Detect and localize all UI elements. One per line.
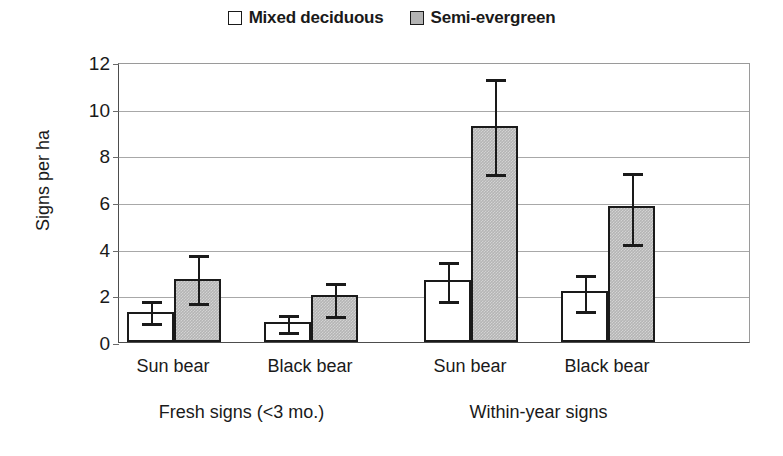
- x-axis-group-label-0: Fresh signs (<3 mo.): [159, 402, 325, 423]
- error-bar-cap-upper: [142, 301, 162, 304]
- error-bar-cap-lower: [189, 303, 209, 306]
- chart-legend: Mixed deciduous Semi-evergreen: [0, 8, 783, 28]
- x-axis-label-2: Sun bear: [433, 356, 506, 377]
- error-bar-cap-upper: [439, 262, 459, 265]
- legend-swatch-icon-mixed-deciduous: [228, 11, 242, 25]
- legend-label-mixed-deciduous: Mixed deciduous: [249, 8, 384, 28]
- error-bar-cap-upper: [326, 283, 346, 286]
- legend-label-semi-evergreen: Semi-evergreen: [431, 8, 556, 28]
- y-tick-label: 8: [99, 146, 110, 168]
- error-bar-cap-lower: [142, 323, 162, 326]
- x-axis-label-0: Sun bear: [136, 356, 209, 377]
- y-axis-title: Signs per ha: [33, 91, 54, 271]
- y-tick-mark: [113, 344, 119, 345]
- x-axis-label-1: Black bear: [267, 356, 352, 377]
- error-bar-cap-lower: [486, 174, 506, 177]
- error-bar-cap-upper: [189, 255, 209, 258]
- y-tick-label: 6: [99, 193, 110, 215]
- legend-swatch-icon-semi-evergreen: [410, 11, 424, 25]
- x-axis-group-label-1: Within-year signs: [469, 402, 607, 423]
- error-bar-line: [448, 262, 450, 301]
- error-bar-cap-lower: [326, 316, 346, 319]
- error-bar-cap-lower: [576, 311, 596, 314]
- error-bar-cap-lower: [439, 301, 459, 304]
- error-bar-line: [495, 79, 497, 174]
- plot-area: 024681012: [118, 63, 750, 343]
- y-tick-label: 10: [89, 100, 110, 122]
- y-tick-label: 12: [89, 53, 110, 75]
- y-tick-label: 0: [99, 333, 110, 355]
- error-bar-line: [632, 173, 634, 244]
- bars-layer: [119, 64, 749, 342]
- error-bar-cap-upper: [486, 79, 506, 82]
- error-bar-line: [335, 283, 337, 316]
- error-bar-cap-upper: [623, 173, 643, 176]
- legend-entry-mixed-deciduous: Mixed deciduous: [228, 8, 384, 28]
- bar-chart: Mixed deciduous Semi-evergreen Signs per…: [0, 0, 783, 456]
- error-bar-line: [585, 275, 587, 311]
- x-axis-label-3: Black bear: [564, 356, 649, 377]
- error-bar-cap-upper: [279, 315, 299, 318]
- legend-entry-semi-evergreen: Semi-evergreen: [410, 8, 556, 28]
- error-bar-cap-upper: [576, 275, 596, 278]
- error-bar-line: [198, 255, 200, 303]
- y-tick-label: 2: [99, 286, 110, 308]
- y-tick-label: 4: [99, 240, 110, 262]
- error-bar-line: [151, 301, 153, 323]
- error-bar-cap-lower: [279, 332, 299, 335]
- error-bar-cap-lower: [623, 244, 643, 247]
